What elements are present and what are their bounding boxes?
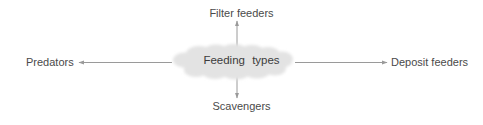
node-label-predators: Predators — [26, 57, 74, 68]
node-label-scavengers: Scavengers — [0, 101, 483, 112]
node-label-filter-feeders: Filter feeders — [0, 8, 483, 19]
node-label-deposit-feeders: Deposit feeders — [391, 57, 468, 68]
feeding-types-diagram: Feeding types Filter feeders Deposit fee… — [0, 0, 483, 125]
